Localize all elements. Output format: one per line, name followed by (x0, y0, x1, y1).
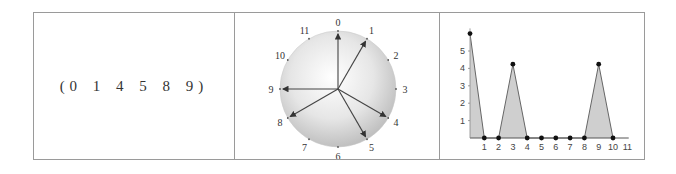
clock-tick (287, 59, 289, 61)
clock-tick (395, 88, 397, 90)
data-point (582, 136, 587, 141)
clock-label-4: 4 (394, 117, 399, 128)
data-point (539, 136, 544, 141)
x-tick-label: 7 (568, 142, 573, 152)
x-tick-label: 6 (553, 142, 558, 152)
clock-label-3: 3 (403, 84, 408, 95)
data-point (611, 136, 616, 141)
data-point (496, 136, 501, 141)
clock-tick (366, 138, 368, 140)
x-tick-label: 5 (539, 142, 544, 152)
data-point (553, 136, 558, 141)
interval-chart: 123456789101112345 (440, 13, 644, 159)
data-point (568, 136, 573, 141)
clock-tick (337, 146, 339, 148)
x-tick-label: 8 (582, 142, 587, 152)
y-tick-label: 4 (460, 63, 465, 73)
x-tick-label: 3 (510, 142, 515, 152)
clock-tick (387, 59, 389, 61)
data-point (511, 62, 516, 67)
clock-label-10: 10 (275, 50, 285, 61)
clock-label-9: 9 (269, 84, 274, 95)
x-tick-label: 10 (608, 142, 618, 152)
clock-diagram: 01234567891011 (235, 13, 440, 159)
y-tick-label: 1 (460, 116, 465, 126)
data-point (525, 136, 530, 141)
clock-tick (366, 38, 368, 40)
y-tick-label: 2 (460, 98, 465, 108)
x-tick-label: 9 (596, 142, 601, 152)
set-cell: (0 1 4 5 8 9) (34, 13, 235, 159)
clock-tick (279, 88, 281, 90)
clock-tick (387, 117, 389, 119)
data-point (596, 62, 601, 67)
x-tick-label: 4 (525, 142, 530, 152)
clock-tick (308, 138, 310, 140)
data-point (482, 136, 487, 141)
clock-tick (337, 30, 339, 32)
clock-label-11: 11 (300, 25, 310, 36)
clock-tick (308, 38, 310, 40)
clock-tick (287, 117, 289, 119)
clock-label-8: 8 (277, 117, 282, 128)
clock-label-0: 0 (336, 17, 341, 28)
y-tick-label: 3 (460, 81, 465, 91)
clock-diagram-cell: 01234567891011 (235, 13, 440, 159)
pitch-class-set: (0 1 4 5 8 9) (60, 78, 209, 95)
x-tick-label: 1 (482, 142, 487, 152)
figure-table: (0 1 4 5 8 9) 01234567891011 12345678910… (33, 12, 645, 160)
clock-label-6: 6 (336, 151, 341, 160)
x-tick-label: 11 (623, 142, 632, 152)
y-tick-label: 5 (460, 46, 465, 56)
x-tick-label: 2 (496, 142, 501, 152)
area-fill (470, 34, 613, 138)
chart-cell: 123456789101112345 (440, 13, 644, 159)
clock-label-2: 2 (394, 50, 399, 61)
clock-label-7: 7 (302, 142, 307, 153)
clock-label-5: 5 (369, 142, 374, 153)
clock-label-1: 1 (369, 25, 374, 36)
data-point (468, 31, 473, 36)
